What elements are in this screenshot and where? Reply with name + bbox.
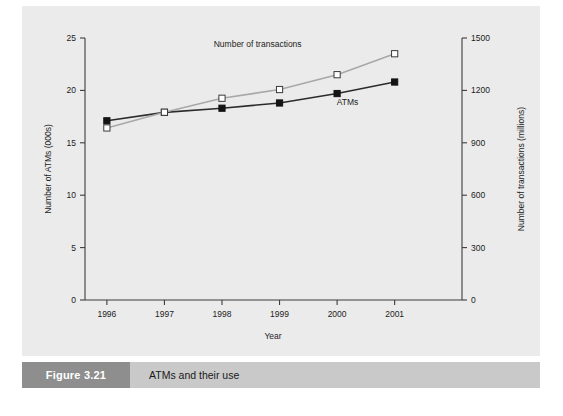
- data-point-marker: [276, 86, 282, 92]
- x-axis-tick-label: 1997: [155, 309, 174, 319]
- left-axis-tick-label: 15: [67, 138, 77, 148]
- figure-number-label: Figure 3.21: [46, 369, 106, 381]
- series-group: [104, 51, 398, 131]
- data-point-marker: [219, 95, 225, 101]
- figure-container: 0510152025 030060090012001500 1996199719…: [0, 0, 563, 416]
- right-axis-tick-label: 1500: [471, 33, 490, 43]
- x-axis-tick-label: 1996: [97, 309, 116, 319]
- figure-number-block: Figure 3.21: [22, 362, 130, 388]
- right-axis-tick-label: 300: [471, 243, 485, 253]
- series-label-atms: ATMs: [337, 97, 359, 107]
- figure-title-wrap: ATMs and their use: [130, 362, 540, 388]
- data-point-marker: [334, 72, 340, 78]
- data-point-marker: [219, 105, 225, 111]
- data-point-marker: [334, 90, 340, 96]
- x-axis-ticks: 199619971998199920002001: [97, 300, 404, 319]
- data-point-marker: [276, 100, 282, 106]
- x-axis-title: Year: [264, 331, 281, 341]
- left-axis-tick-label: 10: [67, 190, 77, 200]
- left-axis-tick-label: 5: [71, 243, 76, 253]
- axes-group: [85, 38, 462, 300]
- data-point-marker: [161, 109, 167, 115]
- data-point-marker: [104, 125, 110, 131]
- left-axis-title: Number of ATMs (000s): [43, 124, 53, 214]
- left-axis-tick-label: 20: [67, 85, 77, 95]
- left-axis-tick-label: 0: [71, 295, 76, 305]
- series-label-number-of-transactions: Number of transactions: [214, 39, 302, 49]
- right-axis-ticks: 030060090012001500: [462, 33, 490, 305]
- right-axis-tick-label: 0: [471, 295, 476, 305]
- x-axis-tick-label: 2001: [385, 309, 404, 319]
- right-axis-tick-label: 600: [471, 190, 485, 200]
- data-point-marker: [392, 79, 398, 85]
- right-axis-title: Number of transactions (millions): [516, 107, 526, 231]
- right-axis-tick-label: 1200: [471, 85, 490, 95]
- left-axis-tick-label: 25: [67, 33, 77, 43]
- data-point-marker: [104, 118, 110, 124]
- x-axis-tick-label: 1998: [213, 309, 232, 319]
- x-axis-tick-label: 1999: [270, 309, 289, 319]
- figure-caption-bar: Figure 3.21 ATMs and their use: [22, 362, 540, 388]
- left-axis-ticks: 0510152025: [67, 33, 85, 305]
- figure-title-label: ATMs and their use: [149, 369, 239, 381]
- data-point-marker: [392, 51, 398, 57]
- right-axis-tick-label: 900: [471, 138, 485, 148]
- chart-svg: 0510152025 030060090012001500 1996199719…: [0, 0, 563, 362]
- x-axis-tick-label: 2000: [328, 309, 347, 319]
